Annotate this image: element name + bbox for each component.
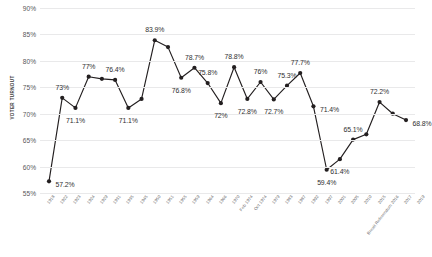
x-axis-tick-label: 2001 [337, 194, 347, 205]
data-point-marker[interactable] [298, 71, 302, 75]
x-axis-tick-label: 1959 [191, 194, 201, 205]
data-point-marker[interactable] [325, 168, 329, 172]
data-point-label: 76% [254, 68, 268, 75]
data-point-label: 68.8% [412, 120, 431, 127]
data-point-marker[interactable] [139, 97, 143, 101]
y-axis-tick-label: 60% [8, 163, 36, 170]
data-point-marker[interactable] [126, 106, 130, 110]
y-axis-tick-label: 85% [8, 31, 36, 38]
x-axis-tick-label: 2019 [416, 194, 426, 205]
y-axis-tick-label: 90% [8, 5, 36, 12]
x-axis-tick-label: Oct 1974 [252, 194, 267, 211]
gridline [40, 87, 415, 88]
data-point-label: 75.3% [277, 71, 296, 78]
turnout-line-series [40, 8, 415, 193]
data-point-label: 72.7% [264, 108, 283, 115]
data-point-label: 71.4% [320, 106, 339, 113]
data-point-label: 61.4% [330, 168, 349, 175]
data-point-label: 77.7% [291, 59, 310, 66]
data-point-marker[interactable] [47, 179, 51, 183]
y-axis: VOTER TURNOUT 55%60%65%70%75%80%85%90% [0, 0, 36, 257]
x-axis-tick-label: 1979 [271, 194, 281, 205]
data-point-label: 73% [55, 83, 69, 90]
x-axis-tick-label: 1918 [46, 194, 56, 205]
x-axis-tick-label: 1997 [324, 194, 334, 205]
x-axis: 1918192219231924192919311935194519501951… [40, 194, 415, 254]
data-point-label: 71.1% [66, 116, 85, 123]
x-axis-tick-label: 1931 [112, 194, 122, 205]
data-point-label: 78.8% [225, 53, 244, 60]
data-point-marker[interactable] [87, 75, 91, 79]
x-axis-tick-label: 1935 [125, 194, 135, 205]
y-axis-tick-label: 75% [8, 84, 36, 91]
data-point-label: 76.8% [172, 86, 191, 93]
x-axis-tick-label: 1970 [231, 194, 241, 205]
plot-area: 57.2%73%71.1%77%76.4%71.1%83.9%76.8%78.7… [40, 8, 415, 193]
data-point-marker[interactable] [206, 81, 210, 85]
data-point-marker[interactable] [153, 38, 157, 42]
x-axis-tick-label: 1992 [310, 194, 320, 205]
data-point-label: 59.4% [317, 178, 336, 185]
x-axis-tick-label: 1922 [59, 194, 69, 205]
data-point-label: 78.7% [185, 53, 204, 60]
x-axis-tick-label: 1966 [218, 194, 228, 205]
x-axis-tick-label: 2010 [363, 194, 373, 205]
y-axis-title: VOTER TURNOUT [10, 65, 15, 131]
data-point-marker[interactable] [245, 97, 249, 101]
x-axis-tick-label: 1945 [138, 194, 148, 205]
x-axis-tick-label: 1951 [165, 194, 175, 205]
data-point-label: 72.8% [238, 107, 257, 114]
data-point-marker[interactable] [338, 157, 342, 161]
gridline [40, 140, 415, 141]
data-point-label: 72% [214, 112, 228, 119]
data-point-marker[interactable] [60, 96, 64, 100]
data-point-marker[interactable] [364, 132, 368, 136]
data-point-label: 75.8% [198, 69, 217, 76]
data-point-marker[interactable] [192, 66, 196, 70]
data-point-marker[interactable] [219, 101, 223, 105]
x-axis-tick-label: 2017 [403, 194, 413, 205]
x-axis-tick-label: 1923 [72, 194, 82, 205]
data-point-label: 77% [82, 62, 96, 69]
data-point-label: 57.2% [55, 181, 74, 188]
gridline [40, 167, 415, 168]
y-axis-tick-label: 55% [8, 190, 36, 197]
data-point-label: 65.1% [344, 125, 363, 132]
data-point-marker[interactable] [73, 106, 77, 110]
x-axis-tick-label: 1924 [86, 194, 96, 205]
data-point-marker[interactable] [377, 100, 381, 104]
data-point-marker[interactable] [258, 80, 262, 84]
x-axis-tick-label: 1964 [205, 194, 215, 205]
data-point-marker[interactable] [166, 45, 170, 49]
x-axis-tick-label: 1929 [99, 194, 109, 205]
y-axis-tick-label: 65% [8, 137, 36, 144]
data-point-label: 72.2% [370, 88, 389, 95]
gridline [40, 61, 415, 62]
data-point-marker[interactable] [404, 118, 408, 122]
x-axis-tick-label: 2015 [376, 194, 386, 205]
x-axis-tick-label: 1950 [152, 194, 162, 205]
x-axis-tick-label: 2005 [350, 194, 360, 205]
data-point-label: 71.1% [119, 116, 138, 123]
gridline [40, 8, 415, 9]
data-point-label: 83.9% [145, 26, 164, 33]
y-axis-tick-label: 80% [8, 57, 36, 64]
data-point-marker[interactable] [232, 65, 236, 69]
data-point-marker[interactable] [179, 76, 183, 80]
x-axis-tick-label: 1983 [284, 194, 294, 205]
gridline [40, 34, 415, 35]
data-point-marker[interactable] [311, 104, 315, 108]
x-axis-tick-label: 1955 [178, 194, 188, 205]
data-point-label: 76.4% [106, 65, 125, 72]
data-point-marker[interactable] [272, 97, 276, 101]
x-axis-tick-label: 1987 [297, 194, 307, 205]
y-axis-tick-label: 70% [8, 110, 36, 117]
data-point-marker[interactable] [100, 77, 104, 81]
data-point-marker[interactable] [113, 78, 117, 82]
